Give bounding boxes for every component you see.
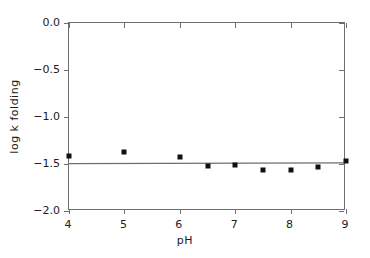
x-axis-label-text: pH xyxy=(177,234,193,247)
y-axis-tick-label: −0.5 xyxy=(26,64,60,75)
data-point xyxy=(316,164,321,169)
y-axis-label-text: log k folding xyxy=(8,79,21,153)
x-axis-tick xyxy=(346,209,347,214)
x-axis-tick-label: 6 xyxy=(175,219,182,230)
data-point xyxy=(260,167,265,172)
data-point xyxy=(288,167,293,172)
x-axis-tick-label: 9 xyxy=(342,219,349,230)
y-axis-tick xyxy=(64,211,69,212)
x-axis-tick xyxy=(180,209,181,214)
x-axis-tick-label: 4 xyxy=(65,219,72,230)
x-axis-tick-label: 5 xyxy=(120,219,127,230)
plot-area xyxy=(68,22,345,210)
data-point xyxy=(344,159,349,164)
data-point xyxy=(177,155,182,160)
x-axis-tick-top xyxy=(346,23,347,28)
x-axis-tick xyxy=(235,209,236,214)
x-axis-tick xyxy=(291,209,292,214)
fit-line xyxy=(69,23,344,209)
y-axis-tick-label: −2.0 xyxy=(26,205,60,216)
chart-figure: log k folding 0.0−0.5−1.0−1.5−2.0 456789… xyxy=(0,0,370,258)
x-axis-tick xyxy=(124,209,125,214)
data-point xyxy=(205,163,210,168)
x-axis-tick-label: 7 xyxy=(231,219,238,230)
y-axis-tick-right xyxy=(339,211,344,212)
data-point xyxy=(233,162,238,167)
x-axis-tick xyxy=(69,209,70,214)
data-point xyxy=(67,154,72,159)
y-axis-tick-label: −1.5 xyxy=(26,158,60,169)
y-axis-label: log k folding xyxy=(6,0,22,232)
x-axis-label: pH xyxy=(0,234,370,247)
y-axis-tick-label: −1.0 xyxy=(26,111,60,122)
y-axis-tick-label: 0.0 xyxy=(26,17,60,28)
x-axis-tick-label: 8 xyxy=(286,219,293,230)
data-point xyxy=(122,149,127,154)
